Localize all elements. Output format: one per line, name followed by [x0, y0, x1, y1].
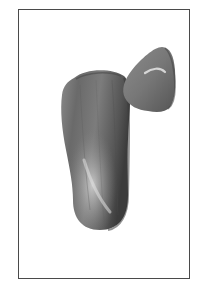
stones-photo: [0, 0, 203, 300]
small-stone: [123, 47, 175, 112]
large-stone: [61, 70, 130, 230]
